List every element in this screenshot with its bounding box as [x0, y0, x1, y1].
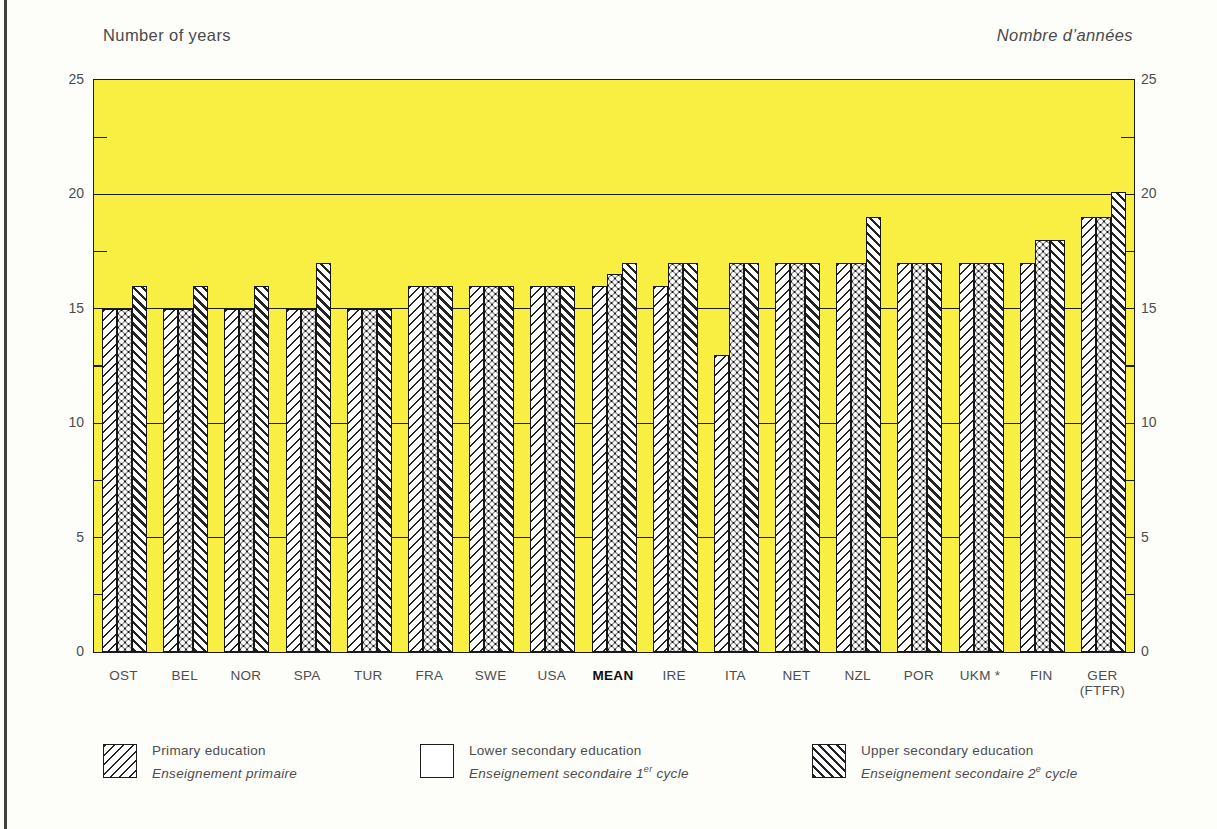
- bar-fin-dots: [1035, 240, 1050, 652]
- legend-item-primary: Primary education Enseignement primaire: [103, 742, 297, 783]
- bar-ire-diagonal-down: [683, 263, 698, 652]
- bar-spa-dots: [301, 309, 316, 652]
- bar-nor-dots: [239, 309, 254, 652]
- y-tick-label-right-10: 10: [1141, 413, 1185, 431]
- legend-label-primary-en: Primary education: [152, 742, 297, 760]
- y-tick-label-left-25: 25: [40, 70, 84, 88]
- bar-usa-diagonal-up: [530, 286, 545, 652]
- bar-ger-diagonal-up: [1081, 217, 1096, 652]
- bar-mean-diagonal-down: [622, 263, 637, 652]
- legend-label-lower-secondary-en: Lower secondary education: [469, 742, 689, 760]
- page-edge-line: [4, 0, 7, 829]
- bar-fin-diagonal-down: [1050, 240, 1065, 652]
- bar-ost-diagonal-down: [132, 286, 147, 652]
- bar-tur-diagonal-down: [377, 309, 392, 652]
- legend-label-lower-secondary-fr: Enseignement secondaire 1er cycle: [469, 760, 689, 783]
- y-tick-label-right-20: 20: [1141, 184, 1185, 202]
- plot-area: [93, 79, 1135, 653]
- bar-bel-dots: [178, 309, 193, 652]
- bar-net-diagonal-up: [775, 263, 790, 652]
- bar-tur-diagonal-up: [347, 309, 362, 652]
- y-tick-label-left-20: 20: [40, 184, 84, 202]
- bar-spa-diagonal-down: [316, 263, 331, 652]
- bar-ukm-diagonal-down: [989, 263, 1004, 652]
- bar-nzl-diagonal-down: [866, 217, 881, 652]
- y-tick-label-left-0: 0: [40, 642, 84, 660]
- legend-swatch-upper-secondary: [812, 744, 846, 778]
- bar-spa-diagonal-up: [286, 309, 301, 652]
- bar-por-diagonal-down: [927, 263, 942, 652]
- y-tick-label-left-5: 5: [40, 528, 84, 546]
- legend: Primary education Enseignement primaire …: [0, 742, 1217, 802]
- legend-swatch-lower-secondary: [420, 744, 454, 778]
- chart-title-french: Nombre d’années: [997, 26, 1133, 45]
- y-tick-label-right-5: 5: [1141, 528, 1185, 546]
- bar-ire-dots: [668, 263, 683, 652]
- bar-ost-dots: [117, 309, 132, 652]
- y-tick-label-right-0: 0: [1141, 642, 1185, 660]
- bar-fra-diagonal-up: [408, 286, 423, 652]
- bar-net-dots: [790, 263, 805, 652]
- bar-bel-diagonal-down: [193, 286, 208, 652]
- gridline-20: [94, 194, 1134, 195]
- legend-item-lower-secondary: Lower secondary education Enseignement s…: [420, 742, 689, 783]
- bar-ita-dots: [729, 263, 744, 652]
- bar-por-dots: [912, 263, 927, 652]
- bar-ita-diagonal-down: [744, 263, 759, 652]
- chart-title-english: Number of years: [103, 26, 231, 45]
- bar-usa-diagonal-down: [560, 286, 575, 652]
- bar-fra-diagonal-down: [438, 286, 453, 652]
- bar-fin-diagonal-up: [1020, 263, 1035, 652]
- bar-ire-diagonal-up: [653, 286, 668, 652]
- legend-item-upper-secondary: Upper secondary education Enseignement s…: [812, 742, 1077, 783]
- x-category-label-ger: GER(FTFR): [1065, 668, 1139, 698]
- bar-tur-dots: [362, 309, 377, 652]
- bar-nor-diagonal-down: [254, 286, 269, 652]
- legend-swatch-primary: [103, 744, 137, 778]
- y-axis-minor-tick: [94, 251, 107, 252]
- bar-ukm-dots: [974, 263, 989, 652]
- bar-swe-diagonal-down: [499, 286, 514, 652]
- bar-ost-diagonal-up: [102, 309, 117, 652]
- bar-por-diagonal-up: [897, 263, 912, 652]
- scanned-page: Number of years Nombre d’années 00551010…: [0, 0, 1217, 829]
- bar-nor-diagonal-up: [224, 309, 239, 652]
- bar-nzl-diagonal-up: [836, 263, 851, 652]
- y-tick-label-right-25: 25: [1141, 70, 1185, 88]
- y-axis-minor-tick: [94, 137, 107, 138]
- y-tick-label-left-15: 15: [40, 299, 84, 317]
- bar-swe-dots: [484, 286, 499, 652]
- bar-usa-dots: [545, 286, 560, 652]
- y-axis-minor-tick: [1121, 137, 1134, 138]
- bar-net-diagonal-down: [805, 263, 820, 652]
- bar-fra-dots: [423, 286, 438, 652]
- legend-label-upper-secondary-en: Upper secondary education: [861, 742, 1077, 760]
- bar-mean-diagonal-up: [592, 286, 607, 652]
- bar-nzl-dots: [851, 263, 866, 652]
- legend-label-upper-secondary-fr: Enseignement secondaire 2e cycle: [861, 760, 1077, 783]
- bar-ukm-diagonal-up: [959, 263, 974, 652]
- bar-swe-diagonal-up: [469, 286, 484, 652]
- bar-bel-diagonal-up: [163, 309, 178, 652]
- bar-ita-diagonal-up: [714, 355, 729, 652]
- y-tick-label-left-10: 10: [40, 413, 84, 431]
- bar-ger-diagonal-down: [1111, 192, 1126, 652]
- legend-label-primary-fr: Enseignement primaire: [152, 760, 297, 783]
- y-tick-label-right-15: 15: [1141, 299, 1185, 317]
- bar-ger-dots: [1096, 217, 1111, 652]
- bar-mean-dots: [607, 274, 622, 652]
